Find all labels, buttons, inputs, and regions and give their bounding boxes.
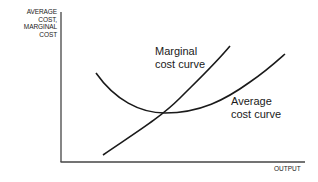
label-line: Average	[231, 95, 281, 108]
label-line: cost curve	[155, 58, 205, 71]
x-axis-label: OUTPUT	[274, 165, 301, 172]
label-line: cost curve	[231, 108, 281, 121]
chart-plot	[0, 0, 318, 182]
label-line: Marginal	[155, 45, 205, 58]
average-cost-label: Average cost curve	[231, 95, 281, 121]
marginal-cost-label: Marginal cost curve	[155, 45, 205, 71]
